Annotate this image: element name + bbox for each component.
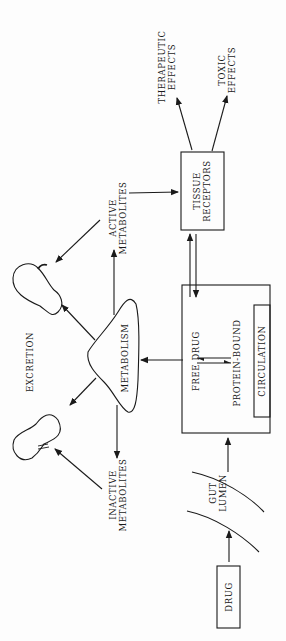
active-line1: ACTIVE xyxy=(108,182,118,255)
active-metabolites-label: ACTIVE METABOLITES xyxy=(108,182,128,255)
gut-label-line2: LUMEN xyxy=(218,474,228,512)
metabolism-label: METABOLISM xyxy=(120,323,130,392)
drug-label: DRUG xyxy=(224,582,234,612)
drug-disposition-diagram: DRUG GUT LUMEN FREE DRUG PROTEIN-BOUND C… xyxy=(0,0,286,641)
tissue-label-line2: RECEPTORS xyxy=(202,160,212,221)
toxic-line2: EFFECTS xyxy=(227,47,237,93)
gut-wall-upper xyxy=(192,472,264,512)
toxic-effects-label: TOXIC EFFECTS xyxy=(217,47,237,93)
inactive-line1: INACTIVE xyxy=(108,459,118,532)
inactive-line2: METABOLITES xyxy=(118,459,128,532)
tissue-receptors-label: TISSUE RECEPTORS xyxy=(192,160,212,221)
therapeutic-line1: THERAPEUTIC xyxy=(157,30,167,103)
metabolism-blob xyxy=(88,299,139,412)
kidney-lower xyxy=(13,415,60,460)
gut-wall-lower xyxy=(187,511,259,552)
tissue-label-line1: TISSUE xyxy=(192,160,202,221)
therapeutic-line2: EFFECTS xyxy=(167,30,177,103)
excretion-label: EXCRETION xyxy=(25,332,35,392)
diagram-shapes xyxy=(0,0,286,641)
protein-bound-label: PROTEIN-BOUND xyxy=(232,319,242,406)
kidney-upper xyxy=(13,264,62,315)
gut-label-line1: GUT xyxy=(208,474,218,512)
active-line2: METABOLITES xyxy=(118,182,128,255)
toxic-line1: TOXIC xyxy=(217,47,227,93)
circulation-label: CIRCULATION xyxy=(257,325,267,396)
free-drug-label: FREE DRUG xyxy=(191,331,201,391)
therapeutic-effects-label: THERAPEUTIC EFFECTS xyxy=(157,30,177,103)
gut-lumen-label: GUT LUMEN xyxy=(208,474,228,512)
inactive-metabolites-label: INACTIVE METABOLITES xyxy=(108,459,128,532)
